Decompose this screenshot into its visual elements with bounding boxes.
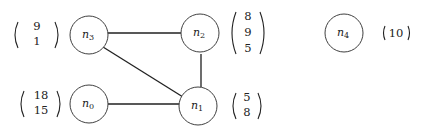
vector-n0-value-0: 18: [34, 88, 49, 102]
right-paren: [260, 12, 264, 54]
right-paren: [258, 93, 261, 119]
right-paren: [408, 26, 410, 40]
left-paren: [233, 93, 236, 119]
vector-n3-value-1: 1: [33, 34, 40, 48]
vector-n1-value-0: 5: [243, 90, 250, 104]
node-n4[interactable]: n4: [325, 14, 363, 52]
vector-n2-value-1: 9: [244, 25, 251, 39]
vector-n0-value-1: 15: [34, 103, 49, 117]
vector-n2: 8 9 5: [232, 9, 264, 55]
node-n1[interactable]: n1: [179, 87, 217, 125]
vector-n1: 5 8: [233, 90, 261, 119]
right-paren: [57, 91, 60, 117]
vector-n0: 18 15: [21, 88, 60, 117]
left-paren: [232, 12, 236, 54]
vector-n4: 10: [384, 26, 410, 40]
left-paren: [15, 22, 18, 48]
edge-n3-n1: [103, 47, 183, 97]
vector-n1-value-1: 8: [243, 105, 250, 119]
node-n3[interactable]: n3: [70, 16, 108, 54]
vector-n3-value-0: 9: [33, 19, 40, 33]
vector-n2-value-2: 5: [244, 41, 251, 55]
left-paren: [21, 91, 24, 117]
vector-n4-value-0: 10: [389, 26, 404, 40]
right-paren: [55, 22, 58, 48]
graph-diagram: n3 9 1 n2 8 9 5 n1 5 8 n0 18 15: [0, 0, 432, 134]
left-paren: [384, 26, 386, 40]
vector-n3: 9 1: [15, 19, 58, 48]
node-n0[interactable]: n0: [70, 85, 108, 123]
node-n2[interactable]: n2: [181, 14, 219, 52]
vector-n2-value-0: 8: [244, 9, 251, 23]
